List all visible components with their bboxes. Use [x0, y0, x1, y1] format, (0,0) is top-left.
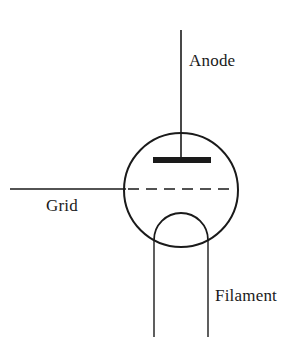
filament-label: Filament — [215, 287, 277, 304]
anode-plate-bar — [153, 157, 211, 163]
anode-label: Anode — [189, 52, 235, 69]
filament-arc — [154, 213, 208, 240]
grid-label: Grid — [46, 197, 78, 214]
triode-tube-diagram: Anode Grid Filament — [0, 0, 302, 355]
